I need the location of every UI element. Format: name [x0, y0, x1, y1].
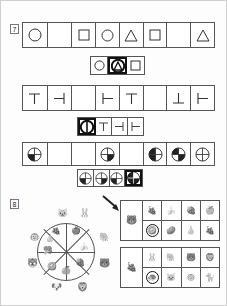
grid-header-fruit: 🍇 — [121, 248, 143, 287]
grid-row: 🐰 🐘 🐻 🦁 — [143, 248, 219, 268]
grid-row: 🥝 🥔 🍐 🍇 — [143, 221, 219, 240]
shape-pattern-row — [22, 22, 215, 48]
grid-row: 🍇 🍌 🍓 🍏 — [143, 201, 219, 221]
quadrant-answer-row — [77, 169, 143, 187]
wheel-item: 🍓 — [75, 259, 85, 267]
cell-item: 🥔 — [166, 227, 176, 235]
shape-answer-row — [90, 56, 145, 75]
cell-item: 🦁 — [205, 254, 215, 262]
cell-item: 🐰 — [147, 254, 157, 262]
wheel-outer-item: 🐰 — [79, 209, 90, 218]
grid-cell[interactable]: 🐘 — [162, 248, 181, 267]
pattern-cell-blank[interactable] — [48, 23, 73, 47]
pattern-cell[interactable] — [167, 86, 191, 110]
fruit-to-animal-grid: 🍇 🐰 🐘 🐻 🦁 🐢 🐱 🐵 🐈 — [120, 247, 220, 288]
animal-to-fruit-grid: 🐻 🍇 🍌 🍓 🍏 🥝 🥔 🍐 🍇 — [120, 200, 220, 241]
cell-item: 🥝 — [147, 227, 157, 235]
worksheet-page: 7 — [0, 0, 227, 306]
cell-item: 🍐 — [186, 227, 196, 235]
grid-cell-selected[interactable]: 🐢 — [143, 268, 162, 287]
pattern-cell[interactable] — [72, 23, 96, 47]
grid-cell[interactable]: 🍏 — [201, 201, 219, 220]
pattern-cell[interactable] — [96, 143, 120, 165]
wheel-outer-item: 🐻 — [99, 259, 110, 268]
grid-cell[interactable]: 🍐 — [182, 221, 201, 240]
answer-option-square[interactable] — [127, 57, 144, 74]
cell-item: 🐘 — [166, 254, 176, 262]
spinner-wheel[interactable]: 🍇 🍎 🍌 🍓 🍊 🥝 🥦 🍐 🐱 🐰 🐘 🐻 🦁 🐶 🐯 🐵 — [19, 205, 111, 301]
answer-option-circle-triangle-selected[interactable] — [108, 57, 126, 74]
grid-cell[interactable]: 🍌 — [162, 201, 181, 220]
grid-cell[interactable]: 🍇 — [143, 201, 162, 220]
cell-item: 🍇 — [147, 207, 157, 215]
cell-item: 🍓 — [186, 207, 196, 215]
answer-option-circle-bar-selected[interactable] — [78, 118, 96, 135]
cell-item: 🐱 — [166, 274, 176, 282]
pattern-cell[interactable] — [48, 86, 73, 110]
answer-option-tee-right[interactable] — [112, 118, 127, 135]
wheel-outer-item: 🐵 — [29, 233, 40, 242]
pattern-cell[interactable] — [120, 23, 144, 47]
pattern-cell[interactable] — [191, 23, 214, 47]
answer-option-quad-full-selected[interactable] — [125, 170, 142, 186]
wheel-item: 🍎 — [71, 227, 81, 235]
section-8-number: 8 — [10, 199, 19, 209]
grid-cell[interactable]: 🍇 — [201, 221, 219, 240]
wheel-item: 🍐 — [45, 235, 55, 243]
grid-header-animal: 🐻 — [121, 201, 143, 240]
wheel-item: 🥦 — [43, 247, 53, 255]
tee-pattern-row — [22, 85, 215, 111]
pattern-cell[interactable] — [120, 86, 144, 110]
pattern-cell[interactable] — [23, 23, 48, 47]
wheel-outer-item: 🐯 — [27, 259, 38, 268]
pattern-cell-blank[interactable] — [72, 143, 96, 165]
pattern-cell[interactable] — [191, 143, 214, 165]
wheel-outer-item: 🐶 — [51, 283, 62, 292]
wheel-outer-item: 🦁 — [77, 283, 88, 292]
pattern-cell[interactable] — [167, 143, 191, 165]
pattern-cell[interactable] — [96, 86, 120, 110]
pattern-cell[interactable] — [96, 23, 120, 47]
pattern-cell-blank[interactable] — [144, 86, 168, 110]
pattern-cell[interactable] — [144, 143, 168, 165]
wheel-item: 🥝 — [47, 263, 57, 271]
wheel-outer-item: 🐘 — [99, 233, 110, 242]
wheel-item: 🍊 — [61, 267, 71, 275]
grid-cell[interactable]: 🦁 — [201, 248, 219, 267]
header-item: 🍇 — [126, 263, 137, 272]
quadrant-pattern-row — [22, 142, 215, 166]
pattern-cell-blank[interactable] — [120, 143, 144, 165]
answer-option-circle[interactable] — [91, 57, 108, 74]
pattern-cell[interactable] — [191, 86, 214, 110]
answer-option-quad-bl2[interactable] — [110, 170, 125, 186]
answer-option-tee-down[interactable] — [96, 118, 112, 135]
grid-cell[interactable]: 🥔 — [162, 221, 181, 240]
grid-cell[interactable]: 🐵 — [182, 268, 201, 287]
answer-option-quad-bl[interactable] — [78, 170, 94, 186]
header-item: 🐻 — [126, 216, 137, 225]
grid-row: 🐢 🐱 🐵 🐈 — [143, 268, 219, 287]
pattern-cell-blank[interactable] — [48, 143, 73, 165]
answer-option-tee-left[interactable] — [128, 118, 143, 135]
grid-cell-selected[interactable]: 🥝 — [143, 221, 162, 240]
cell-item: 🍇 — [205, 227, 215, 235]
pattern-cell-blank[interactable] — [72, 86, 96, 110]
cell-item: 🍌 — [166, 207, 176, 215]
section-7-number: 7 — [10, 24, 19, 34]
grid-cell[interactable]: 🐱 — [162, 268, 181, 287]
cell-item: 🐻 — [186, 254, 196, 262]
cell-item: 🐢 — [147, 274, 157, 282]
grid-cell[interactable]: 🐈 — [201, 268, 219, 287]
pattern-cell[interactable] — [144, 23, 168, 47]
grid-cell[interactable]: 🍓 — [182, 201, 201, 220]
pattern-cell[interactable] — [23, 143, 48, 165]
answer-option-quad-br[interactable] — [94, 170, 109, 186]
wheel-item: 🍌 — [79, 243, 89, 251]
tee-answer-row — [77, 117, 144, 136]
cell-item: 🐈 — [205, 274, 215, 282]
pattern-cell[interactable] — [23, 86, 48, 110]
grid-cell[interactable]: 🐻 — [182, 248, 201, 267]
cell-item: 🍏 — [205, 207, 215, 215]
pattern-cell-blank[interactable] — [167, 23, 191, 47]
grid-cell[interactable]: 🐰 — [143, 248, 162, 267]
